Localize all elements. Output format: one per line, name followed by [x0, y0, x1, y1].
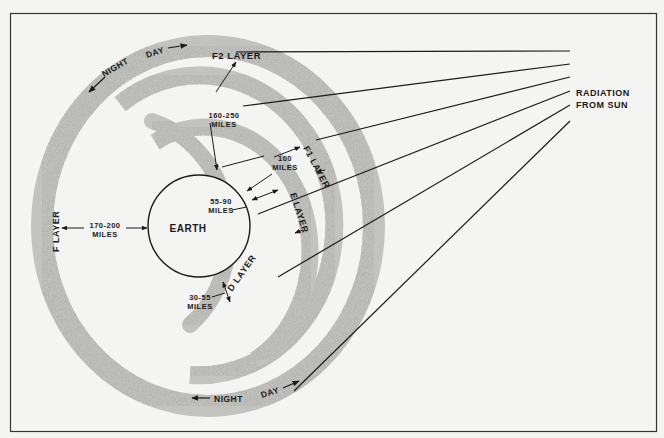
f2-distance-value: 160-250 [208, 111, 239, 120]
e-distance-value: 55-90 [210, 197, 232, 206]
e-distance-unit: MILES [208, 206, 233, 215]
earth-label: EARTH [170, 223, 207, 234]
e-distance-arrow [252, 190, 278, 200]
radiation-label-line1: RADIATION [576, 88, 630, 98]
radiation-label-line2: FROM SUN [576, 100, 628, 110]
f2-layer-label: F2 LAYER [212, 50, 261, 61]
f2-distance-unit: MILES [211, 120, 236, 129]
d-distance-value: 30-55 [189, 293, 211, 302]
f-distance-value: 170-200 [89, 221, 120, 230]
f1-distance-value: 100 [278, 154, 292, 163]
f-layer-label: F LAYER [51, 211, 61, 252]
ionosphere-diagram: EARTH RADIATION FROM SUN F2 LAYER 160-25… [0, 0, 664, 438]
f-distance-unit: MILES [92, 230, 117, 239]
f1-pointer [247, 174, 272, 191]
f1-distance-unit: MILES [272, 163, 297, 172]
d-distance-unit: MILES [187, 302, 212, 311]
f1-distance-line-a [222, 156, 264, 167]
night-label-bottom: NIGHT [214, 394, 243, 404]
